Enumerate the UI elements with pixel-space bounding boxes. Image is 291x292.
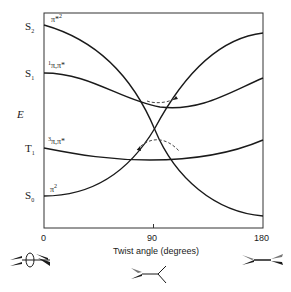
- y-axis-label: E: [16, 108, 24, 120]
- curve-t1: [44, 140, 263, 160]
- curve-s0: [44, 33, 263, 196]
- label-s0: S0: [25, 189, 34, 203]
- energy-diagram: S2 S1 T1 S0 E π*2 1π,π* 3π,π* π2 0 90 18…: [0, 0, 291, 292]
- config-s1: 1π,π*: [48, 60, 65, 70]
- arrowhead-lower: [137, 146, 141, 151]
- config-t1: 3π,π*: [48, 136, 65, 146]
- label-t1: T1: [25, 142, 35, 156]
- label-s2: S2: [25, 20, 34, 34]
- config-s0: π2: [50, 183, 57, 194]
- label-s1: S1: [25, 67, 34, 81]
- molecule-twisted-90-icon: [131, 266, 166, 283]
- x-axis-label: Twist angle (degrees): [113, 246, 199, 256]
- tick-label-0: 0: [41, 233, 46, 243]
- config-s2: π*2: [51, 13, 62, 24]
- molecule-planar-0-icon: [10, 253, 50, 267]
- tick-label-90: 90: [147, 233, 157, 243]
- molecule-planar-180-icon: [242, 254, 283, 265]
- plot-frame: [44, 13, 263, 228]
- tick-label-180: 180: [254, 233, 269, 243]
- curve-s2: [44, 25, 263, 216]
